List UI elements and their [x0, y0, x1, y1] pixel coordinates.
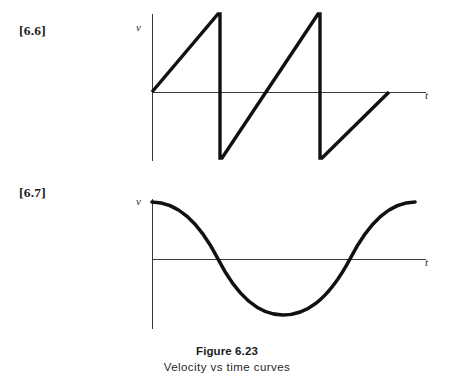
- figure-caption: Figure 6.23 Velocity vs time curves: [0, 344, 454, 375]
- cosine-velocity-time-chart: [0, 0, 454, 385]
- figure-caption-subtitle: Velocity vs time curves: [0, 360, 454, 375]
- cosine-waveform: [152, 202, 415, 315]
- figure-6-23: [6.6] v t [6.7] v t Figure 6.23 Velocity…: [0, 0, 454, 385]
- figure-caption-title: Figure 6.23: [0, 344, 454, 358]
